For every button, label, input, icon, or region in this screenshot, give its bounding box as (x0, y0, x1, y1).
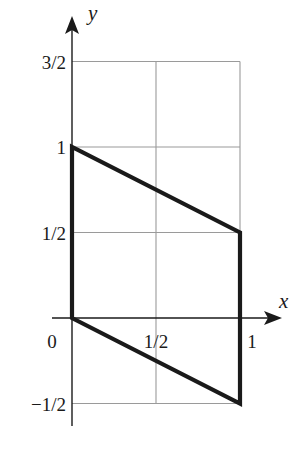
y-tick-label: 3/2 (42, 52, 66, 73)
y-tick-label: 1/2 (42, 223, 66, 244)
y-tick-label: −1/2 (31, 394, 66, 415)
plot-area: 01/21−1/21/213/2 x y (0, 0, 306, 456)
x-tick-label: 1/2 (144, 331, 168, 352)
x-tick-label: 0 (47, 331, 57, 352)
grid-lines (72, 62, 240, 404)
y-axis-label: y (86, 1, 98, 25)
y-tick-label: 1 (57, 137, 67, 158)
x-axis-label: x (278, 289, 289, 313)
x-tick-label: 1 (247, 331, 257, 352)
